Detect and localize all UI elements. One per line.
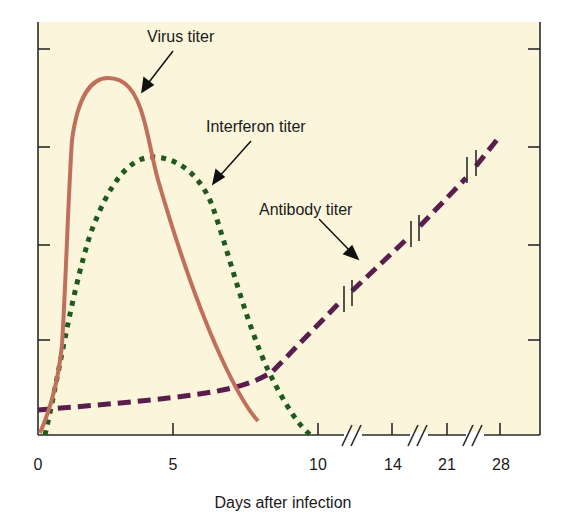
chart: 0 5 10 14 21 28 Days after infection Vir… [0, 0, 566, 514]
x-tick-0: 0 [34, 456, 43, 473]
x-tick-21: 21 [438, 456, 456, 473]
x-tick-14: 14 [384, 456, 402, 473]
x-tick-labels: 0 5 10 14 21 28 [34, 456, 510, 473]
x-tick-10: 10 [309, 456, 327, 473]
x-tick-5: 5 [169, 456, 178, 473]
virus-label: Virus titer [147, 28, 215, 45]
x-axis-title: Days after infection [215, 494, 352, 511]
plot-area [38, 22, 540, 435]
antibody-label: Antibody titer [259, 201, 353, 218]
x-tick-28: 28 [492, 456, 510, 473]
interferon-label: Interferon titer [206, 118, 306, 135]
